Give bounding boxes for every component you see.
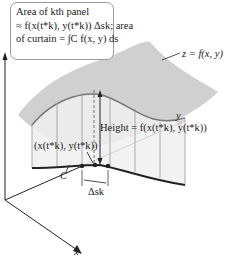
callout-line2: ≈ f(x(t*k), y(t*k)) Δsk; area [16, 19, 108, 33]
delta-s-label: Δsk [88, 186, 104, 197]
surface-label: z = f(x, y) [182, 48, 223, 59]
x-axis-label: x [74, 246, 79, 257]
height-label: Height = f(x(t*k), y(t*k)) [100, 122, 207, 133]
callout-line3: of curtain = ∫C f(x, y) ds [16, 32, 108, 46]
y-axis-label: y [176, 110, 181, 121]
callout-line1: Area of kth panel [16, 5, 108, 19]
curve-label: C [60, 170, 67, 181]
area-callout: Area of kth panel ≈ f(x(t*k), y(t*k)) Δs… [10, 2, 114, 60]
x-axis [5, 200, 80, 252]
point-label: (x(t*k), y(t*k)) [34, 140, 98, 151]
